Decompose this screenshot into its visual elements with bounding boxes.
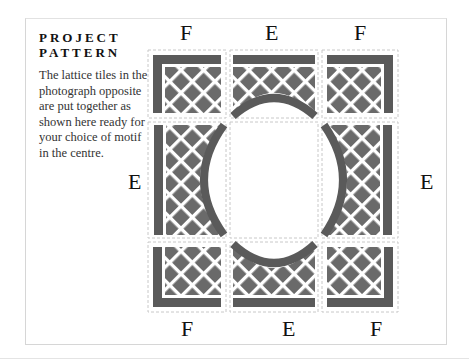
- tile-f-bottom-right-border-v: [384, 247, 393, 307]
- tile-f-top-left-gap-h: [162, 64, 221, 67]
- tile-e-top-border: [233, 55, 315, 64]
- tile-f-top-left-gap-v: [162, 64, 165, 113]
- centre-space-outline: [230, 122, 318, 238]
- tile-f-bottom-right-border-h: [327, 298, 393, 307]
- tile-f-top-left-border-v: [153, 55, 162, 113]
- lattice-pattern-diagram: [0, 0, 469, 363]
- tile-f-bottom-left-border-v: [153, 247, 162, 307]
- tile-e-bottom-border: [233, 298, 315, 307]
- tile-f-top-right-gap-v: [381, 64, 384, 113]
- tile-f-top-right-border-v: [384, 55, 393, 113]
- tile-f-bottom-left-gap-h: [162, 295, 221, 298]
- tile-f-bottom-left-border-h: [153, 298, 221, 307]
- tile-f-bottom-right-gap-v: [381, 247, 384, 298]
- tile-f-top-right-gap-h: [327, 64, 384, 67]
- tile-f-bottom-left-gap-v: [162, 247, 165, 298]
- tile-f-top-left-border-h: [153, 55, 221, 64]
- tile-f-top-right-border-h: [327, 55, 393, 64]
- tile-e-left-border: [154, 125, 163, 235]
- tile-f-bottom-right-gap-h: [327, 295, 384, 298]
- tile-e-right-border: [383, 125, 392, 235]
